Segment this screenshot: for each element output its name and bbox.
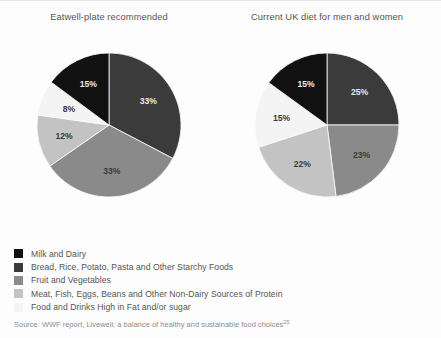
pie-svg-current-uk: 25%23%22%15%15% [227,29,427,225]
pie-slice-label: 15% [297,79,315,89]
legend-item-fat_sugar: Food and Drinks High in Fat and/or sugar [14,301,434,314]
legend-swatch-protein [14,289,23,298]
chart-title-eatwell: Eatwell-plate recommended [4,12,214,22]
pie-chart-eatwell: Eatwell-plate recommended 33%33%12%8%15% [4,1,214,239]
legend-swatch-fat_sugar [14,303,23,312]
source-text: Source: WWF report, Livewell: a balance … [14,320,283,329]
pie-slice-label: 33% [103,166,121,176]
legend-label-fat_sugar: Food and Drinks High in Fat and/or sugar [31,302,191,312]
source-note: Source: WWF report, Livewell: a balance … [14,320,289,329]
legend-swatch-starchy [14,263,23,272]
pie-slice-label: 23% [353,150,371,160]
pie-slice-label: 12% [56,131,74,141]
legend-item-milk_dairy: Milk and Dairy [14,247,434,260]
pie-slice-label: 33% [140,96,158,106]
source-reference: 25 [283,319,289,325]
legend-label-milk_dairy: Milk and Dairy [31,249,86,259]
legend: Milk and DairyBread, Rice, Potato, Pasta… [14,247,434,314]
pie-slice-label: 25% [351,87,369,97]
pie-slice [327,125,399,196]
charts-row: Eatwell-plate recommended 33%33%12%8%15%… [0,1,441,239]
legend-item-fruit_veg: Fruit and Vegetables [14,274,434,287]
pie-slice-label: 15% [80,79,98,89]
legend-label-fruit_veg: Fruit and Vegetables [31,275,111,285]
legend-item-protein: Meat, Fish, Eggs, Beans and Other Non-Da… [14,287,434,300]
legend-label-protein: Meat, Fish, Eggs, Beans and Other Non-Da… [31,289,282,299]
pie-slice-label: 8% [63,104,76,114]
chart-title-current-uk: Current UK diet for men and women [222,12,432,22]
legend-label-starchy: Bread, Rice, Potato, Pasta and Other Sta… [31,262,233,272]
legend-swatch-fruit_veg [14,276,23,285]
pie-slice-label: 15% [273,113,291,123]
pie-canvas-eatwell: 33%33%12%8%15% [4,29,214,229]
pie-svg-eatwell: 33%33%12%8%15% [9,29,209,225]
pie-canvas-current-uk: 25%23%22%15%15% [222,29,432,229]
pie-chart-current-uk: Current UK diet for men and women 25%23%… [222,1,432,239]
pie-slice-label: 22% [294,159,312,169]
legend-swatch-milk_dairy [14,249,23,258]
legend-item-starchy: Bread, Rice, Potato, Pasta and Other Sta… [14,260,434,273]
figure-container: Eatwell-plate recommended 33%33%12%8%15%… [0,0,441,338]
